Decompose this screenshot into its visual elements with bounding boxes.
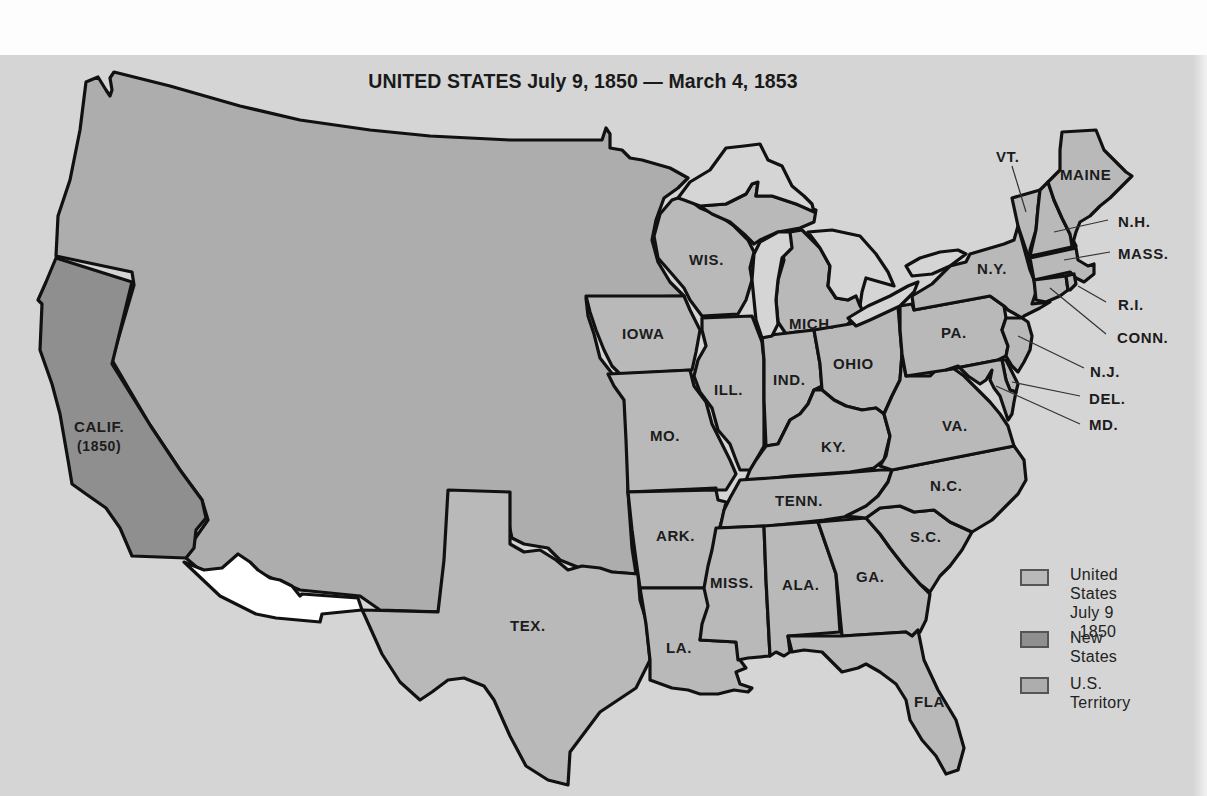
legend-swatch-territory bbox=[1020, 677, 1049, 694]
state-rhode-island bbox=[1066, 274, 1076, 290]
label-ky: KY. bbox=[821, 439, 846, 454]
label-nc: N.C. bbox=[930, 478, 962, 493]
label-vt: VT. bbox=[996, 149, 1019, 164]
label-fla: FLA. bbox=[914, 694, 950, 709]
label-mich: MICH. bbox=[789, 316, 835, 331]
label-mo: MO. bbox=[650, 428, 680, 443]
label-ga: GA. bbox=[856, 569, 884, 584]
map-title: UNITED STATES July 9, 1850 — March 4, 18… bbox=[0, 70, 1166, 93]
label-del: DEL. bbox=[1089, 391, 1126, 406]
label-md: MD. bbox=[1089, 417, 1118, 432]
label-ny: N.Y. bbox=[977, 261, 1007, 276]
label-tenn: TENN. bbox=[775, 493, 823, 508]
label-tex: TEX. bbox=[510, 618, 546, 633]
label-maine: MAINE bbox=[1060, 167, 1111, 182]
label-miss: MISS. bbox=[710, 575, 754, 590]
label-nj: N.J. bbox=[1090, 364, 1120, 379]
label-nh: N.H. bbox=[1118, 214, 1150, 229]
label-la: LA. bbox=[666, 640, 692, 655]
page-edge-shadow bbox=[1193, 55, 1207, 796]
label-ill: ILL. bbox=[714, 382, 743, 397]
label-mass: MASS. bbox=[1118, 246, 1169, 261]
label-pa: PA. bbox=[941, 325, 967, 340]
label-wis: WIS. bbox=[689, 252, 724, 267]
label-ala: ALA. bbox=[782, 577, 819, 592]
label-conn: CONN. bbox=[1117, 330, 1168, 345]
label-ind: IND. bbox=[773, 372, 805, 387]
label-ri: R.I. bbox=[1118, 297, 1144, 312]
label-calif: CALIF. (1850) bbox=[74, 419, 124, 453]
label-ark: ARK. bbox=[656, 528, 695, 543]
label-iowa: IOWA bbox=[622, 326, 664, 341]
label-va: VA. bbox=[942, 418, 968, 433]
legend-label: New States bbox=[1070, 628, 1117, 666]
legend-swatch-new-states bbox=[1020, 631, 1049, 648]
legend-label: U.S. Territory bbox=[1070, 674, 1130, 712]
legend-swatch-states-1850 bbox=[1020, 569, 1049, 586]
label-ohio: OHIO bbox=[833, 356, 874, 371]
label-sc: S.C. bbox=[910, 529, 942, 544]
